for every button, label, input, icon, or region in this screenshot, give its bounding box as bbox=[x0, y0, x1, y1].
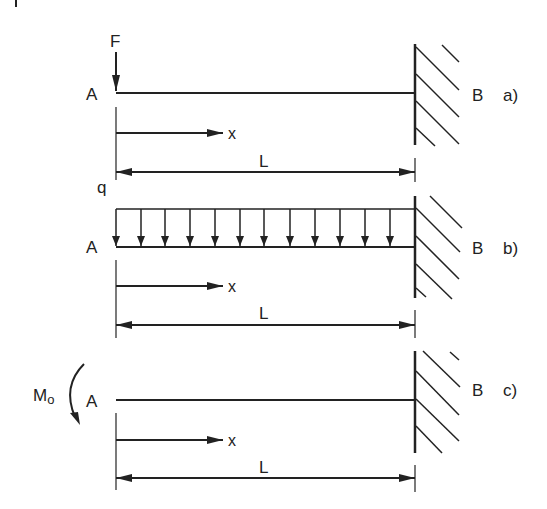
x-label: x bbox=[228, 125, 236, 142]
moment-arrow-icon bbox=[70, 364, 84, 417]
length-label: L bbox=[259, 458, 268, 477]
distributed-load-label: q bbox=[97, 178, 106, 197]
moment-label: Mo bbox=[33, 386, 54, 407]
length-label: L bbox=[259, 304, 268, 323]
case-label: c) bbox=[503, 381, 517, 400]
fixed-end-label: B bbox=[472, 239, 483, 258]
fixed-support-wall bbox=[415, 351, 460, 453]
fixed-end-label: B bbox=[472, 381, 483, 400]
free-end-label: A bbox=[86, 238, 98, 257]
fixed-end-label: B bbox=[472, 86, 483, 105]
x-label: x bbox=[228, 432, 236, 449]
cantilever-diagram: F A B a) x L q bbox=[0, 0, 547, 509]
case-c: Mo A B c) x L bbox=[33, 351, 517, 492]
case-a: F A B a) x L bbox=[86, 32, 518, 182]
free-end-label: A bbox=[86, 85, 98, 104]
x-label: x bbox=[228, 278, 236, 295]
free-end-label: A bbox=[86, 392, 98, 411]
case-b: q A B b) x bbox=[86, 178, 518, 338]
fixed-support-wall bbox=[415, 44, 459, 146]
distributed-load-arrows-icon bbox=[116, 209, 390, 246]
length-label: L bbox=[259, 152, 268, 171]
case-label: b) bbox=[503, 239, 518, 258]
case-label: a) bbox=[503, 86, 518, 105]
force-label: F bbox=[110, 32, 120, 51]
fixed-support-wall bbox=[415, 196, 462, 299]
